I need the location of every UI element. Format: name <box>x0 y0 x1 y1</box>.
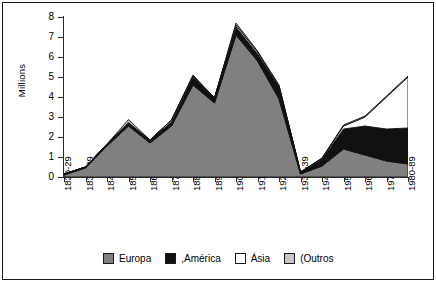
y-axis-tick <box>58 37 63 38</box>
y-axis-tick-label: 7 <box>36 32 54 42</box>
y-axis-tick-label: 0 <box>36 172 54 182</box>
legend-item[interactable]: Europa <box>103 253 151 264</box>
y-axis-tick-label: 1 <box>36 152 54 162</box>
y-axis-tick <box>58 17 63 18</box>
chart-frame: Millions 012345678 1820-291830-391840-49… <box>2 2 434 280</box>
legend-label: Europa <box>119 253 151 264</box>
y-axis-tick-label: 4 <box>36 92 54 102</box>
chart-figure: Millions 012345678 1820-291830-391840-49… <box>0 0 436 282</box>
legend-item[interactable]: Ásia <box>235 253 270 264</box>
y-axis-tick-label: 6 <box>36 52 54 62</box>
legend-label: (Outros <box>300 253 333 264</box>
y-axis-tick-label: 3 <box>36 112 54 122</box>
legend-label: ,América <box>181 253 220 264</box>
y-axis-tick-label: 8 <box>36 12 54 22</box>
y-axis-tick-label: 2 <box>36 132 54 142</box>
legend-item[interactable]: ,América <box>165 253 220 264</box>
x-axis-tick-label: 1980-89 <box>407 156 417 191</box>
legend-swatch-icon <box>103 253 114 264</box>
y-axis-title: Millions <box>16 41 27 121</box>
legend-item[interactable]: (Outros <box>284 253 333 264</box>
stacked-area-svg <box>64 17 408 177</box>
y-axis-tick-label: 5 <box>36 72 54 82</box>
area-series-europa <box>64 35 408 177</box>
legend-swatch-icon <box>284 253 295 264</box>
y-axis-tick <box>58 117 63 118</box>
legend-swatch-icon <box>235 253 246 264</box>
chart-legend: Europa,AméricaÁsia(Outros <box>103 253 334 264</box>
y-axis-tick <box>58 137 63 138</box>
y-axis-tick <box>58 97 63 98</box>
plot-area <box>64 17 408 177</box>
y-axis-tick <box>58 77 63 78</box>
legend-label: Ásia <box>251 253 270 264</box>
y-axis-tick <box>58 57 63 58</box>
legend-swatch-icon <box>165 253 176 264</box>
